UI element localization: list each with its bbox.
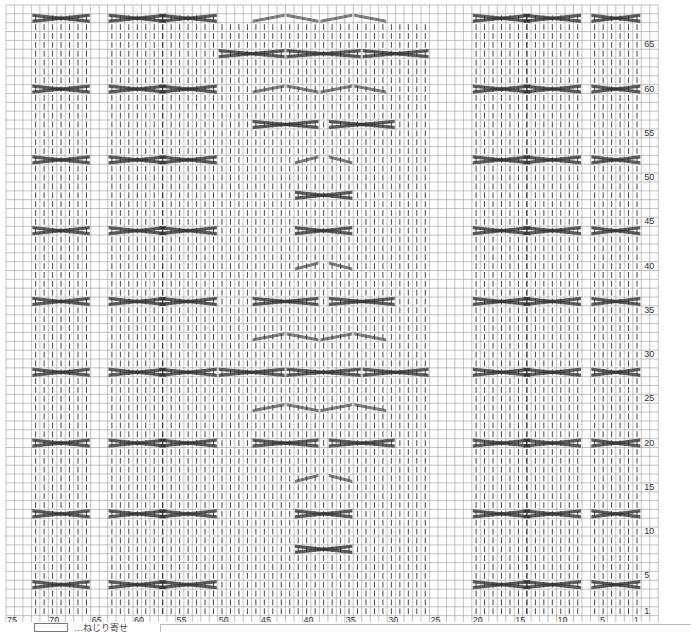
svg-text:40: 40 xyxy=(644,261,654,271)
cable-cross-symbol-icon xyxy=(34,623,68,632)
svg-text:55: 55 xyxy=(644,128,654,138)
svg-text:75: 75 xyxy=(7,615,17,622)
svg-text:35: 35 xyxy=(346,615,356,622)
svg-text:40: 40 xyxy=(303,615,313,622)
svg-text:60: 60 xyxy=(134,615,144,622)
svg-text:30: 30 xyxy=(388,615,398,622)
svg-text:35: 35 xyxy=(644,305,654,315)
svg-text:45: 45 xyxy=(644,216,654,226)
svg-text:15: 15 xyxy=(644,482,654,492)
legend-frame xyxy=(160,624,691,632)
svg-text:70: 70 xyxy=(49,615,59,622)
svg-text:1: 1 xyxy=(644,606,649,616)
svg-text:25: 25 xyxy=(431,615,441,622)
svg-text:25: 25 xyxy=(644,393,654,403)
svg-text:50: 50 xyxy=(644,172,654,182)
svg-text:30: 30 xyxy=(644,349,654,359)
svg-text:10: 10 xyxy=(558,615,568,622)
svg-text:20: 20 xyxy=(644,438,654,448)
legend: …ねじり寄せ xyxy=(34,622,128,632)
svg-text:65: 65 xyxy=(644,39,654,49)
svg-text:5: 5 xyxy=(600,615,605,622)
svg-text:10: 10 xyxy=(644,526,654,536)
svg-text:15: 15 xyxy=(515,615,525,622)
svg-text:50: 50 xyxy=(219,615,229,622)
svg-text:55: 55 xyxy=(176,615,186,622)
svg-text:5: 5 xyxy=(644,570,649,580)
svg-text:1: 1 xyxy=(634,615,639,622)
svg-text:45: 45 xyxy=(261,615,271,622)
svg-text:20: 20 xyxy=(473,615,483,622)
svg-text:60: 60 xyxy=(644,84,654,94)
legend-text: …ねじり寄せ xyxy=(74,621,128,632)
knitting-chart: 7570656055504540353025201510516560555045… xyxy=(0,0,697,622)
